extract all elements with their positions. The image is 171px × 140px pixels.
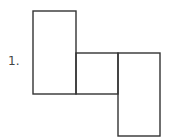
middle-square (76, 53, 118, 94)
net-diagram (0, 0, 171, 140)
left-tall-rectangle (33, 11, 76, 94)
right-tall-rectangle (118, 53, 160, 136)
